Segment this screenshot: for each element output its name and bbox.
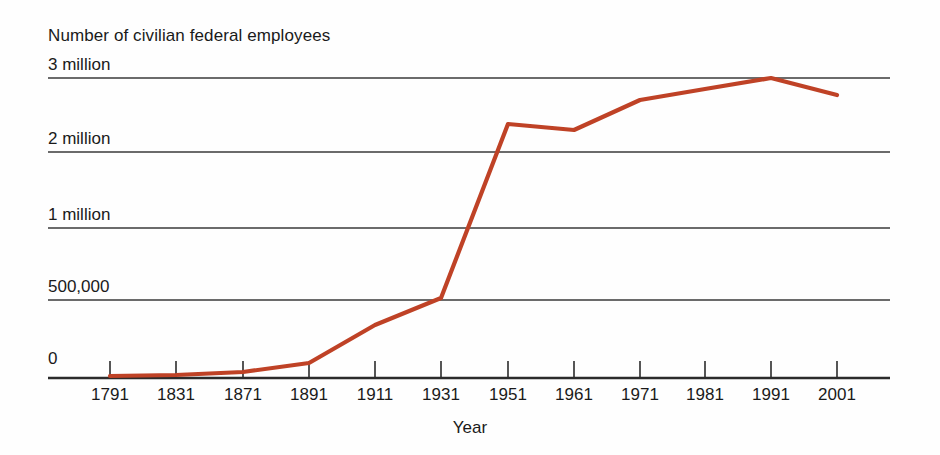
x-axis-tick-label: 1871 xyxy=(224,386,262,403)
gridlines xyxy=(48,78,890,300)
x-axis-tick-label: 2001 xyxy=(818,386,856,403)
y-axis-tick-label: 1 million xyxy=(48,206,110,223)
x-axis-tick-label: 1931 xyxy=(422,386,460,403)
x-axis-tick-label: 1891 xyxy=(290,386,328,403)
x-axis-tick-label: 1831 xyxy=(157,386,195,403)
chart-container: Number of civilian federal employees 3 m… xyxy=(0,0,940,455)
x-axis-tick-label: 1981 xyxy=(686,386,724,403)
y-axis-tick-label: 500,000 xyxy=(48,278,109,295)
y-axis-tick-label: 0 xyxy=(48,350,57,367)
x-axis-tick-label: 1911 xyxy=(357,386,394,403)
plot-area xyxy=(0,0,940,455)
y-axis-tick-label: 2 million xyxy=(48,130,110,147)
x-axis-title: Year xyxy=(0,418,940,438)
x-axis-tick-label: 1961 xyxy=(555,386,593,403)
x-axis-tick-label: 1991 xyxy=(752,386,790,403)
x-axis-tick-label: 1951 xyxy=(489,386,527,403)
x-axis-ticks xyxy=(110,361,837,378)
y-axis-tick-label: 3 million xyxy=(48,56,110,73)
x-axis-tick-label: 1791 xyxy=(91,386,129,403)
data-series-line xyxy=(110,78,837,376)
x-axis-tick-label: 1971 xyxy=(621,386,659,403)
